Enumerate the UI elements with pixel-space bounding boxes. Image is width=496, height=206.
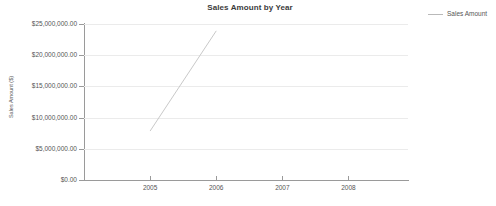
y-axis-tick [79, 180, 84, 181]
gridline-y [84, 118, 408, 119]
x-axis-label: 2007 [262, 185, 302, 192]
chart-title: Sales Amount by Year [0, 3, 496, 12]
x-axis-tick [216, 176, 217, 181]
y-axis-tick [79, 149, 84, 150]
chart-legend: Sales Amount [428, 11, 487, 18]
x-axis-tick [348, 176, 349, 181]
gridline-y [84, 55, 408, 56]
y-axis-tick [79, 24, 84, 25]
legend-label-sales-amount: Sales Amount [447, 11, 487, 18]
gridline-y [84, 86, 408, 87]
y-axis-tick [79, 118, 84, 119]
y-axis-label: $15,000,000.00 [5, 83, 77, 90]
y-axis-tick [79, 55, 84, 56]
y-axis-label: $5,000,000.00 [5, 146, 77, 153]
y-axis-label: $25,000,000.00 [5, 21, 77, 28]
x-axis-label: 2005 [130, 185, 170, 192]
x-axis-label: 2006 [196, 185, 236, 192]
x-axis-label: 2008 [328, 185, 368, 192]
chart-container: Sales Amount by Year Sales Amount ($) $0… [0, 0, 496, 206]
gridline-y [84, 24, 408, 25]
y-axis-label: $0.00 [5, 177, 77, 184]
y-axis-label: $10,000,000.00 [5, 115, 77, 122]
legend-swatch-sales-amount [428, 14, 443, 15]
y-axis-tick [79, 86, 84, 87]
x-axis-tick [150, 176, 151, 181]
x-axis-tick [282, 176, 283, 181]
gridline-y [84, 149, 408, 150]
x-axis-line [84, 180, 409, 181]
y-axis-label: $20,000,000.00 [5, 52, 77, 59]
plot-area [84, 24, 408, 180]
